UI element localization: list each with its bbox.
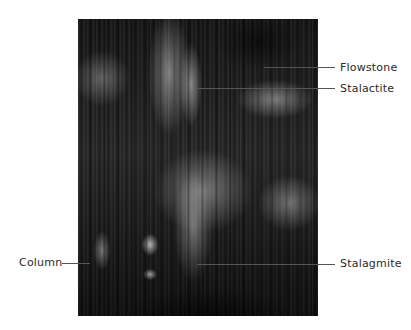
label-stalactite: Stalactite [340, 82, 394, 95]
stalactite-leader-line [196, 88, 335, 89]
label-column: Column [19, 256, 62, 269]
cave-photograph [78, 19, 318, 316]
column-leader-line [62, 263, 90, 264]
stalagmite-leader-line [197, 264, 335, 265]
label-flowstone: Flowstone [340, 61, 397, 74]
label-stalagmite: Stalagmite [340, 257, 402, 270]
photo-shading [78, 19, 318, 316]
flowstone-leader-line [264, 67, 335, 68]
